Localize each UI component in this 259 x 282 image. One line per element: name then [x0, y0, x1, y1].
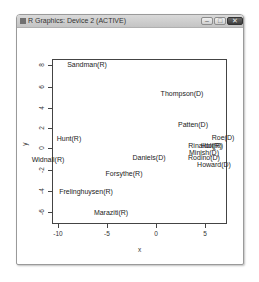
- point-label: Sandman(R): [67, 61, 107, 69]
- point-label: Forsythe(R): [106, 170, 143, 178]
- point-label: Daniels(D): [132, 154, 165, 162]
- point-label: Patten(D): [178, 121, 208, 129]
- point-label: Roe(D): [212, 134, 235, 142]
- point-label: Howard(D): [197, 161, 231, 169]
- point-label: Widnall(R): [32, 156, 65, 164]
- point-label: Hunt(R): [57, 135, 82, 143]
- plot-area: -10 -5 0 5 8 6 4 2 0 -2 -4 -6 x y Sandma…: [0, 0, 259, 282]
- point-label: Frelinghuysen(R): [59, 188, 113, 196]
- point-label: Maraziti(R): [94, 209, 128, 217]
- device-canvas: Sandman(R) Thompson(D) Patten(D) Roe(D) …: [16, 27, 244, 264]
- point-label: Thompson(D): [161, 90, 204, 98]
